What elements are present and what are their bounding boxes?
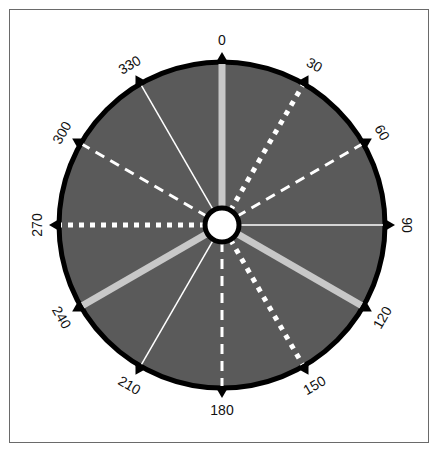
angle-label-330: 330: [115, 52, 143, 78]
angle-label-90: 90: [399, 217, 415, 233]
angle-label-300: 300: [49, 118, 75, 146]
angle-label-0: 0: [218, 32, 226, 48]
tick-marker-0: [215, 52, 229, 64]
tick-marker-270: [49, 218, 61, 232]
tick-marker-180: [215, 386, 229, 398]
tick-marker-90: [383, 218, 395, 232]
angle-label-60: 60: [371, 122, 393, 144]
angle-label-240: 240: [49, 303, 75, 331]
angle-label-180: 180: [210, 402, 234, 418]
angle-label-270: 270: [29, 213, 45, 237]
center-hub: [205, 208, 239, 242]
angle-label-30: 30: [304, 54, 326, 76]
compass-diagram: 0306090120150180210240270300330: [0, 0, 439, 450]
angle-label-150: 150: [300, 372, 328, 398]
angle-label-120: 120: [369, 303, 395, 331]
angle-label-210: 210: [115, 372, 143, 398]
